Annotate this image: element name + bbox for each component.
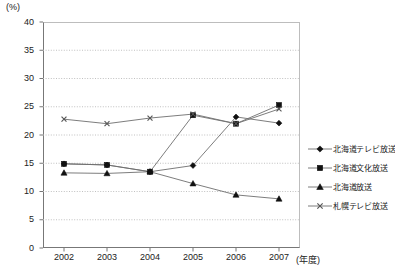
x-axis-tick-label: 2005: [170, 253, 216, 262]
legend-item-label: 札幌テレビ放送: [333, 200, 388, 211]
y-axis-tick-label: 20: [4, 131, 34, 140]
marker-square: [317, 165, 322, 170]
y-axis-tick-label: 10: [4, 187, 34, 196]
legend-item[interactable]: 北海道テレビ放送: [307, 139, 386, 158]
x-axis-unit-label: (年度): [296, 253, 320, 265]
legend-marker-triangle-icon: [307, 180, 333, 194]
legend-item[interactable]: 北海道文化放送: [307, 158, 386, 177]
legend-marker-diamond-icon: [307, 142, 333, 156]
legend-item-label: 北海道文化放送: [333, 162, 388, 173]
y-axis-tick-label: 35: [4, 46, 34, 55]
y-axis-tick-label: 15: [4, 159, 34, 168]
legend-item[interactable]: 札幌テレビ放送: [307, 196, 386, 215]
x-axis-tick-label: 2003: [84, 253, 130, 262]
legend: 北海道テレビ放送北海道文化放送北海道放送札幌テレビ放送: [307, 139, 386, 215]
y-axis-tick-label: 25: [4, 102, 34, 111]
y-axis-tick-label: 0: [4, 244, 34, 253]
x-axis-tick-label: 2006: [213, 253, 259, 262]
y-axis-unit-label: (%): [6, 2, 20, 12]
legend-item-label: 北海道テレビ放送: [333, 143, 395, 154]
y-axis-tick-label: 40: [4, 18, 34, 27]
y-axis-tick-label: 30: [4, 74, 34, 83]
x-axis-tick-label: 2002: [41, 253, 87, 262]
legend-marker-square-icon: [307, 161, 333, 175]
y-axis-tick-label: 5: [4, 215, 34, 224]
legend-item[interactable]: 北海道放送: [307, 177, 386, 196]
legend-item-label: 北海道放送: [333, 181, 372, 192]
marker-diamond: [317, 145, 323, 151]
x-axis-tick-label: 2004: [127, 253, 173, 262]
plot-area: [43, 22, 300, 248]
legend-marker-cross-icon: [307, 199, 333, 213]
